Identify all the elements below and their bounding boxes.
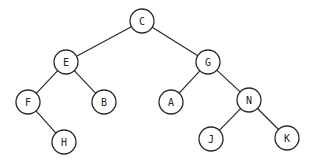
tree-node-g: G xyxy=(196,50,220,74)
node-label: C xyxy=(139,16,145,27)
edge-n-k xyxy=(257,108,278,129)
tree-node-b: B xyxy=(92,90,116,114)
node-label: J xyxy=(208,134,214,145)
tree-diagram: CEGFBANHJK xyxy=(0,0,314,163)
tree-node-a: A xyxy=(159,90,183,114)
tree-node-k: K xyxy=(275,126,299,150)
tree-node-n: N xyxy=(237,88,261,112)
node-label: N xyxy=(246,95,252,106)
tree-node-j: J xyxy=(199,127,223,151)
node-label: G xyxy=(205,57,211,68)
node-label: K xyxy=(284,133,290,144)
edge-f-h xyxy=(36,111,56,133)
node-label: E xyxy=(63,57,69,68)
node-label: H xyxy=(61,137,67,148)
edge-e-b xyxy=(74,71,95,94)
edges-layer xyxy=(36,27,278,133)
edge-c-e xyxy=(77,27,132,57)
node-label: B xyxy=(101,97,107,108)
edge-n-j xyxy=(219,109,240,131)
tree-node-e: E xyxy=(54,50,78,74)
tree-node-f: F xyxy=(16,90,40,114)
edge-g-a xyxy=(179,71,200,93)
node-label: F xyxy=(25,97,31,108)
edge-e-f xyxy=(36,71,57,94)
tree-node-c: C xyxy=(130,9,154,33)
node-label: A xyxy=(168,97,174,108)
tree-node-h: H xyxy=(52,130,76,154)
edge-g-n xyxy=(217,70,240,92)
edge-c-g xyxy=(152,27,198,55)
